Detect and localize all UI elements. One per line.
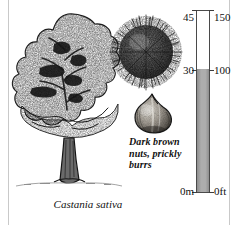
scale-label-top-metres: 45 — [180, 12, 194, 23]
field-guide-plate: Dark brown nuts, prickly burrs Castania … — [0, 0, 238, 225]
scale-label-top-feet: 150 — [214, 12, 231, 23]
scale-label-mid-metres: 30 — [180, 65, 194, 76]
scale-label-mid-feet: 100 — [214, 65, 231, 76]
nut-illustration — [128, 90, 178, 138]
scale-label-bottom-metres: 0m — [176, 186, 194, 197]
scale-column — [196, 10, 210, 193]
feature-caption-line-2: nuts, prickly — [129, 148, 195, 160]
burr-illustration — [108, 14, 184, 92]
height-scale-bar — [196, 10, 210, 193]
feature-caption: Dark brown nuts, prickly burrs — [129, 136, 195, 171]
frame-rule-left — [8, 0, 9, 225]
feature-caption-line-1: Dark brown — [129, 136, 195, 148]
scale-fill — [197, 69, 209, 192]
feature-caption-line-3: burrs — [129, 159, 195, 171]
scale-label-bottom-feet: 0ft — [214, 186, 226, 197]
species-caption: Castania sativa — [28, 198, 148, 210]
frame-rule-right — [229, 0, 230, 225]
